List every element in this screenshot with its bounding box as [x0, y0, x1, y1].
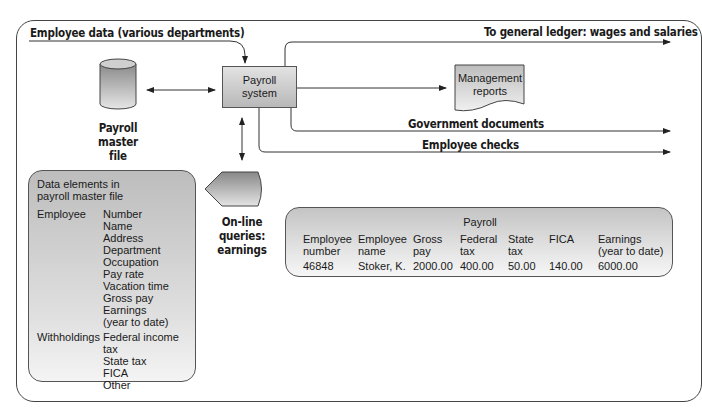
header-l1: FICA — [549, 233, 574, 245]
reports-line1: Management — [455, 72, 525, 85]
payroll-record-table: Payroll Employeenumber Employeename Gros… — [285, 207, 673, 277]
list-item: Gross pay — [103, 292, 169, 304]
header-state-tax: Statetax — [508, 233, 534, 257]
title-line1: Data elements in — [37, 178, 123, 190]
database-icon — [100, 59, 136, 109]
table-cell: 50.00 — [508, 260, 536, 272]
queries-line2: queries: — [212, 229, 272, 243]
list-item: Department — [103, 244, 169, 256]
header-l2: tax — [508, 245, 534, 257]
list-item: Address — [103, 232, 169, 244]
header-l1: Employee — [303, 233, 352, 245]
table-cell: 400.00 — [460, 260, 494, 272]
list-item: State tax — [103, 355, 195, 367]
list-item: (year to date) — [103, 316, 169, 328]
header-earnings-ytd: Earnings(year to date) — [598, 233, 663, 257]
group-label-withholdings: Withholdings — [37, 331, 100, 343]
queries-line1: On-line — [212, 215, 272, 229]
payroll-system-box: Payroll system — [222, 66, 297, 108]
queries-label: On-line queries: earnings — [212, 215, 272, 257]
data-elements-title: Data elements in payroll master file — [37, 178, 123, 202]
government-documents-label: Government documents — [408, 117, 544, 131]
list-item: Pay rate — [103, 268, 169, 280]
reports-line2: reports — [455, 85, 525, 98]
table-title: Payroll — [286, 216, 674, 228]
header-l1: Gross — [413, 233, 442, 245]
process-line1: Payroll — [223, 74, 296, 87]
employee-items: Number Name Address Department Occupatio… — [103, 208, 169, 328]
employee-checks-label: Employee checks — [422, 138, 519, 152]
table-cell: Stoker, K. — [358, 260, 406, 272]
input-label: Employee data (various departments) — [30, 26, 244, 40]
display-icon — [205, 172, 262, 206]
header-employee-number: Employeenumber — [303, 233, 352, 257]
list-item: FICA — [103, 367, 195, 379]
header-gross-pay: Grosspay — [413, 233, 442, 257]
header-l2: pay — [413, 245, 442, 257]
header-federal-tax: Federaltax — [460, 233, 497, 257]
header-fica: FICA — [549, 233, 574, 245]
header-employee-name: Employeename — [358, 233, 407, 257]
table-cell: 46848 — [303, 260, 334, 272]
list-item: Federal income tax — [103, 331, 195, 355]
table-cell: 140.00 — [549, 260, 583, 272]
list-item: Other — [103, 379, 195, 391]
table-cell: 2000.00 — [413, 260, 453, 272]
header-l2: number — [303, 245, 352, 257]
table-cell: 6000.00 — [598, 260, 638, 272]
master-file-line1: Payroll — [94, 121, 142, 135]
header-l2: name — [358, 245, 407, 257]
master-file-line3: file — [94, 149, 142, 163]
list-item: Occupation — [103, 256, 169, 268]
queries-line3: earnings — [212, 243, 272, 257]
master-file-line2: master — [94, 135, 142, 149]
header-l1: Earnings — [598, 233, 663, 245]
withholding-items: Federal income tax State tax FICA Other — [103, 331, 195, 391]
list-item: Vacation time — [103, 280, 169, 292]
header-l1: State — [508, 233, 534, 245]
header-l1: Federal — [460, 233, 497, 245]
master-file-label: Payroll master file — [94, 121, 142, 163]
list-item: Number — [103, 208, 169, 220]
header-l2: (year to date) — [598, 245, 663, 257]
list-item: Earnings — [103, 304, 169, 316]
process-line2: system — [223, 87, 296, 100]
header-l1: Employee — [358, 233, 407, 245]
general-ledger-label: To general ledger: wages and salaries — [484, 25, 698, 39]
management-reports-label: Management reports — [455, 72, 525, 98]
list-item: Name — [103, 220, 169, 232]
header-l2: tax — [460, 245, 497, 257]
title-line2: payroll master file — [37, 190, 123, 202]
data-elements-box: Data elements in payroll master file Emp… — [28, 170, 196, 382]
group-label-employee: Employee — [37, 208, 86, 220]
